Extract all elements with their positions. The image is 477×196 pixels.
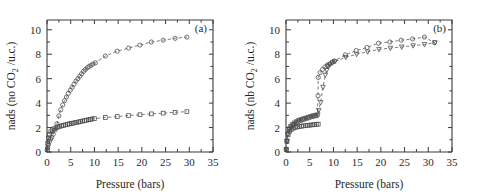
- y-axis-title: nads (nb CO2 /u.c.): [244, 42, 259, 131]
- svg-text:nads (no CO2 /u.c.): nads (no CO2 /u.c.): [5, 42, 20, 131]
- x-axis-title: Pressure (bars): [96, 178, 165, 191]
- y-tick-label: 10: [30, 24, 42, 36]
- y-tick-label: 0: [275, 146, 281, 158]
- panel-tag: (b): [433, 22, 446, 35]
- x-tick-label: 5: [307, 156, 313, 168]
- x-tick-label: 35: [208, 156, 220, 168]
- x-tick-label: 5: [68, 156, 74, 168]
- x-axis-title: Pressure (bars): [335, 178, 404, 191]
- y-tick-label: 8: [36, 48, 42, 60]
- panel-b-plot: 051015202530350246810(b)Pressure (bars)n…: [239, 0, 477, 196]
- y-tick-label: 8: [275, 48, 281, 60]
- x-tick-label: 30: [423, 156, 435, 168]
- x-tick-label: 0: [283, 156, 289, 168]
- series-line-triangles-desorption: [286, 43, 435, 150]
- y-tick-label: 10: [269, 24, 281, 36]
- x-tick-label: 15: [113, 156, 125, 168]
- panel-tag: (a): [195, 22, 208, 35]
- chart-panel-a: 051015202530350246810(a)Pressure (bars)n…: [0, 0, 238, 196]
- chart-panel-b: 051015202530350246810(b)Pressure (bars)n…: [239, 0, 477, 196]
- axis-frame: [47, 20, 213, 152]
- axis-frame: [286, 20, 452, 152]
- y-tick-label: 4: [36, 97, 42, 109]
- x-tick-label: 0: [44, 156, 50, 168]
- y-tick-label: 4: [275, 97, 281, 109]
- x-tick-label: 25: [399, 156, 411, 168]
- series-line-squares-lower: [47, 112, 187, 150]
- y-tick-label: 2: [36, 122, 42, 134]
- x-tick-label: 10: [328, 156, 340, 168]
- x-tick-label: 25: [160, 156, 172, 168]
- panel-a-plot: 051015202530350246810(a)Pressure (bars)n…: [0, 0, 238, 196]
- y-tick-label: 6: [36, 73, 42, 85]
- x-tick-label: 20: [375, 156, 387, 168]
- series-line-circles-adsorption: [286, 37, 434, 149]
- axis-frame-top-right: [47, 20, 213, 152]
- figure-container: 051015202530350246810(a)Pressure (bars)n…: [0, 0, 477, 196]
- y-tick-label: 2: [275, 122, 281, 134]
- y-tick-label: 0: [36, 146, 42, 158]
- x-tick-label: 30: [184, 156, 196, 168]
- x-tick-label: 20: [136, 156, 148, 168]
- data-point-circles-upper: [59, 108, 63, 112]
- x-tick-label: 35: [447, 156, 459, 168]
- svg-text:nads (nb CO2 /u.c.): nads (nb CO2 /u.c.): [244, 42, 259, 131]
- data-point-circles-upper: [115, 49, 119, 53]
- y-axis-title: nads (no CO2 /u.c.): [5, 42, 20, 131]
- y-tick-label: 6: [275, 73, 281, 85]
- axis-frame-top-right: [286, 20, 452, 152]
- series-line-circles-upper: [47, 37, 187, 150]
- x-tick-label: 15: [352, 156, 364, 168]
- data-point-triangles-desorption: [343, 55, 348, 59]
- x-tick-label: 10: [89, 156, 101, 168]
